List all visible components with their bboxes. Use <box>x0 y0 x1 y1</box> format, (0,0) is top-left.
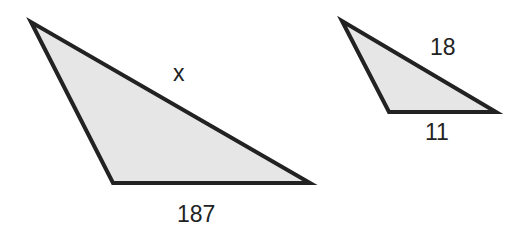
small-triangle-label-slanted: 18 <box>430 36 456 59</box>
large-triangle-label-base: 187 <box>177 203 215 226</box>
large-triangle-label-x: x <box>173 62 185 85</box>
large-triangle <box>31 22 310 183</box>
small-triangle <box>342 21 496 112</box>
small-triangle-label-base: 11 <box>425 121 449 144</box>
